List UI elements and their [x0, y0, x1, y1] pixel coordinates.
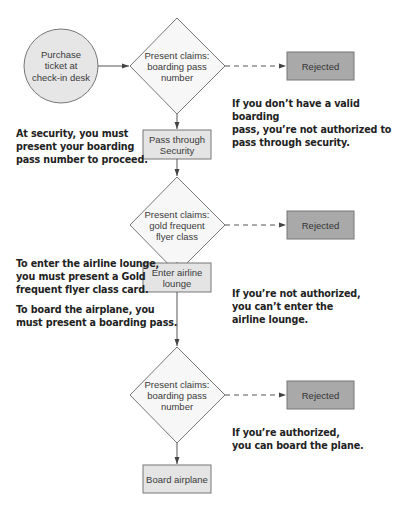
rejected-3-shape — [287, 381, 354, 409]
step-security-shape — [143, 130, 211, 159]
start-node-shape — [24, 29, 98, 103]
note-at-security: At security, you must present your board… — [16, 127, 148, 166]
decision-3-shape — [130, 347, 225, 443]
note-lounge-requirement: To enter the airline lounge, you must pr… — [16, 257, 159, 296]
decision-1-shape — [130, 18, 225, 114]
rejected-1-shape — [287, 52, 354, 80]
note-board-allowed: If you’re authorized, you can board the … — [232, 426, 364, 452]
note-board-requirement: To board the airplane, you must present … — [16, 303, 177, 329]
note-invalid-pass: If you don’t have a valid boarding pass,… — [232, 97, 400, 149]
note-lounge-denied: If you’re not authorized, you can’t ente… — [232, 287, 361, 326]
rejected-2-shape — [287, 211, 354, 239]
step-board-shape — [143, 465, 211, 493]
